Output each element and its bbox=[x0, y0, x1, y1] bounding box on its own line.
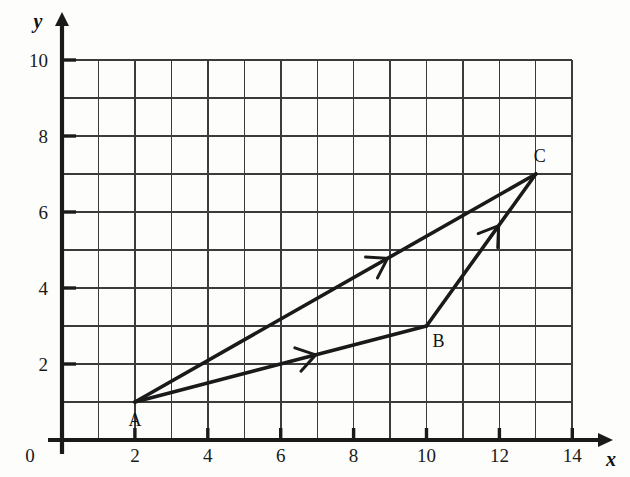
y-axis-tick-label: 4 bbox=[39, 278, 49, 299]
origin-label: 0 bbox=[25, 445, 35, 466]
y-axis-tick-label: 2 bbox=[39, 354, 49, 375]
y-axis-tick-label: 6 bbox=[39, 202, 49, 223]
graph-figure: 2468101214246810 0 x y ABC bbox=[0, 0, 630, 477]
point-label-c: C bbox=[534, 146, 546, 166]
axis-lines bbox=[48, 12, 613, 454]
x-axis-arrowhead-icon bbox=[598, 433, 613, 447]
y-axis-label: y bbox=[32, 10, 43, 33]
vector-addition-plot: 2468101214246810 0 x y ABC bbox=[0, 0, 630, 477]
x-axis-tick-label: 8 bbox=[349, 445, 359, 466]
grid-minor-lines bbox=[62, 60, 572, 440]
x-axis-label: x bbox=[605, 448, 616, 470]
x-axis-tick-label: 12 bbox=[490, 445, 509, 466]
y-axis-tick-label: 8 bbox=[39, 126, 49, 147]
x-axis-tick-label: 2 bbox=[130, 445, 140, 466]
point-label-a: A bbox=[128, 410, 141, 430]
x-axis-tick-label: 4 bbox=[203, 445, 213, 466]
x-axis-tick-label: 10 bbox=[417, 445, 436, 466]
x-axis-tick-label: 14 bbox=[563, 445, 583, 466]
y-axis-tick-label: 10 bbox=[29, 50, 48, 71]
point-label-b: B bbox=[432, 331, 444, 351]
x-axis-tick-label: 6 bbox=[276, 445, 286, 466]
y-axis-arrowhead-icon bbox=[55, 12, 69, 26]
